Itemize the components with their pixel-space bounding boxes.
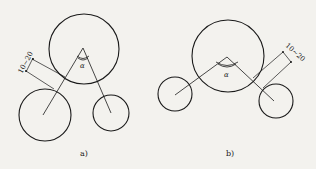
arrow-tip: [282, 51, 284, 53]
center-line-left: [43, 48, 83, 115]
extension-line: [26, 71, 54, 89]
dimension-label: 10~20: [284, 42, 307, 64]
angle-label: α: [80, 62, 85, 70]
panel-caption: b): [226, 149, 234, 158]
panel-b: α 10~20 b): [158, 20, 307, 158]
dimension-line: [283, 52, 291, 62]
left-small-pulley-circle: [158, 77, 192, 111]
right-small-pulley-circle: [259, 84, 293, 118]
center-line-right: [83, 48, 111, 113]
large-pulley-circle: [49, 14, 119, 84]
panel-a: α 10~20 a): [17, 14, 129, 158]
panel-caption: a): [80, 149, 88, 158]
extension-line: [253, 52, 283, 78]
center-line-left: [175, 57, 227, 95]
angle-label: α: [224, 71, 229, 79]
arrow-tip: [290, 61, 292, 63]
belt-drive-wrap-angle-diagram: α 10~20 a) α 10~20 b): [0, 0, 316, 169]
extension-line: [32, 59, 65, 77]
center-line-right: [227, 57, 274, 101]
left-small-pulley-circle: [19, 89, 71, 141]
